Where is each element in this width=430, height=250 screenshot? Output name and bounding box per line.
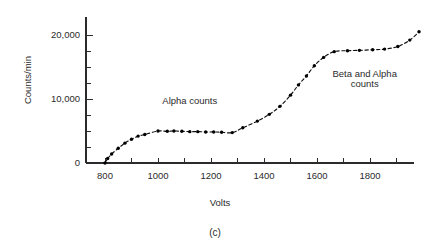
data-point [417,30,420,33]
data-point [204,130,207,133]
data-point [130,138,133,141]
data-point [143,133,146,136]
y-axis-major-ticks [86,35,93,163]
data-point [180,130,183,133]
data-point [289,93,292,96]
data-point [136,134,139,137]
chart-annotation: counts [351,78,379,89]
x-axis-ticks [105,158,397,164]
data-point [305,74,308,77]
data-point [117,147,120,150]
counts-vs-volts-chart: 010,00020,000 80010001200140016001800 Al… [0,0,430,250]
data-point [231,131,234,134]
y-tick-label: 20,000 [51,29,80,40]
chart-annotations: Alpha countsBeta and Alphacounts [162,68,397,106]
figure-container: 010,00020,000 80010001200140016001800 Al… [0,0,430,250]
x-tick-label: 1400 [253,170,274,181]
y-axis-tick-labels: 010,00020,000 [51,29,80,168]
x-tick-label: 1000 [147,170,168,181]
data-point [241,126,244,129]
data-point [371,48,374,51]
chart-annotation: Alpha counts [162,95,217,106]
data-point [268,113,271,116]
data-point [358,49,361,52]
data-point [188,130,191,133]
figure-caption: (c) [209,227,221,238]
y-axis-label: Counts/min [22,56,33,104]
data-point [156,129,159,132]
x-tick-label: 1200 [200,170,221,181]
data-point [408,38,411,41]
data-point [196,130,199,133]
data-point [297,83,300,86]
data-point [383,47,386,50]
data-point [256,119,259,122]
x-tick-label: 1600 [306,170,327,181]
y-tick-label: 0 [75,157,80,168]
data-point-markers [103,30,420,165]
x-axis-label: Volts [210,197,231,208]
data-point [278,105,281,108]
data-point [166,130,169,133]
data-point [346,49,349,52]
data-point [123,141,126,144]
data-point [396,45,399,48]
data-point [220,131,223,134]
y-tick-label: 10,000 [51,93,80,104]
data-point [106,157,109,160]
data-point [103,161,106,164]
data-series-curve [105,32,419,163]
x-tick-label: 800 [97,170,113,181]
data-point [172,129,175,132]
data-point [313,64,316,67]
data-point [212,130,215,133]
data-point [322,56,325,59]
data-point [110,152,113,155]
data-point [333,50,336,53]
x-tick-label: 1800 [359,170,380,181]
x-axis-tick-labels: 80010001200140016001800 [97,170,381,181]
